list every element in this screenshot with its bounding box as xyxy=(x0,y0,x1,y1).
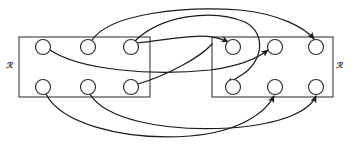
node-L5 xyxy=(81,80,96,95)
node-R6 xyxy=(309,80,324,95)
edge-L3-R1 xyxy=(135,15,260,84)
set-label-right-set: ℛ xyxy=(336,60,344,70)
node-L2 xyxy=(81,40,96,55)
node-R3 xyxy=(309,40,324,55)
edge-L6-R3 xyxy=(138,44,212,84)
node-R1 xyxy=(226,40,241,55)
node-L1 xyxy=(36,40,51,55)
edge-L3-R4 xyxy=(137,36,228,43)
set-label-left-set: ℛ xyxy=(6,60,14,70)
set-boxes-layer xyxy=(19,37,333,97)
edge-L5-R6 xyxy=(90,94,316,129)
node-R2 xyxy=(268,40,283,55)
node-R5 xyxy=(268,80,283,95)
node-L4 xyxy=(36,80,51,95)
edges-layer xyxy=(46,9,316,137)
node-L6 xyxy=(124,80,139,95)
relation-diagram: ℛℛ xyxy=(0,0,356,150)
node-L3 xyxy=(124,40,139,55)
diagram-canvas: ℛℛ xyxy=(0,0,356,150)
node-R4 xyxy=(226,80,241,95)
edge-L2-R3 xyxy=(92,9,314,40)
edge-L4-R5 xyxy=(46,94,274,137)
